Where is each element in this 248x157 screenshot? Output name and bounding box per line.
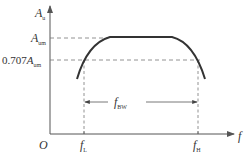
half-power-label: 0.707Aum [2, 54, 41, 68]
f-high-label: fH [193, 138, 201, 153]
max-gain-label: Aum [30, 31, 46, 46]
f-low-label: fL [80, 138, 87, 153]
response-curve [77, 37, 205, 79]
origin-label: O [39, 138, 48, 152]
x-axis-label: f [238, 129, 243, 143]
frequency-response-diagram: Au Aum 0.707Aum fBW O fL fH f [0, 0, 248, 157]
y-axis-label: Au [34, 6, 45, 21]
bandwidth-label: fBW [114, 95, 127, 110]
